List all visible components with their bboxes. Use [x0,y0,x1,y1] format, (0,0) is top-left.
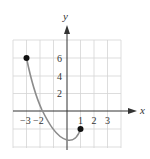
closed-endpoint-right [78,126,84,132]
y-tick-label: 2 [57,88,62,99]
x-tick-label: 3 [105,115,110,126]
x-tick-label: 1 [78,115,83,126]
closed-endpoint-left [24,55,30,61]
x-tick-label: 2 [92,115,97,126]
y-tick-label: 6 [57,53,62,64]
x-tick-label: −3 [20,115,31,126]
y-axis-arrow-icon [64,25,70,34]
x-axis-arrow-icon [128,108,137,114]
x-tick-label: −2 [33,115,44,126]
x-axis-label: x [139,104,145,116]
y-axis-label: y [62,10,68,22]
y-tick-label: 4 [57,71,62,82]
function-graph: x y −3 −2 1 2 3 2 4 6 [0,0,150,159]
